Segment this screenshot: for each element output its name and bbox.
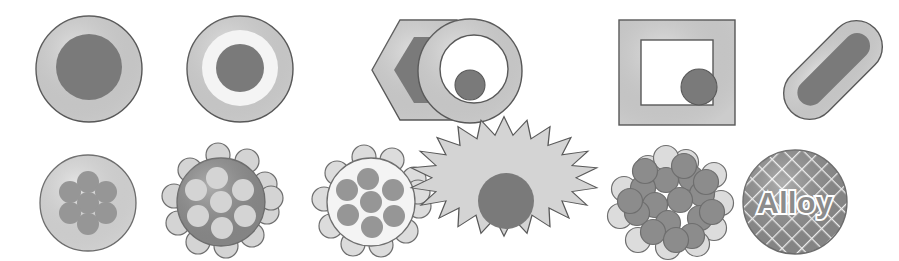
inner-dot — [187, 205, 209, 227]
inner-dot — [361, 216, 383, 238]
cluster-sphere — [668, 188, 693, 213]
core-circle — [216, 44, 264, 92]
cluster-sphere — [694, 170, 719, 195]
particle-core-shell-sphere — [36, 16, 142, 122]
particle-diagram-canvas: Alloy — [0, 0, 899, 261]
inner-dot — [59, 181, 81, 203]
cluster-sphere — [700, 200, 725, 225]
particle-hollow-square-with-core — [619, 20, 735, 125]
cluster-sphere — [672, 154, 697, 179]
inner-dot — [210, 191, 232, 213]
particle-double-shell-sphere — [187, 16, 293, 122]
particle-alloy-sphere: Alloy — [743, 150, 847, 254]
inner-dot — [337, 204, 359, 226]
inner-dot — [185, 179, 207, 201]
core-circle — [56, 34, 122, 100]
inner-dot — [232, 179, 254, 201]
particle-multicore-light-sphere — [40, 155, 136, 251]
inner-dot — [206, 167, 228, 189]
core-circle — [681, 69, 717, 105]
inner-dot — [382, 179, 404, 201]
cluster-sphere — [618, 189, 643, 214]
inner-dot — [383, 205, 405, 227]
nanoparticle-figure: Alloy — [0, 0, 899, 261]
cluster-sphere — [664, 228, 689, 253]
inner-dot — [95, 181, 117, 203]
cluster-sphere — [641, 220, 666, 245]
particle-hollow-ring-with-core — [418, 19, 522, 123]
inner-dot — [336, 179, 358, 201]
cluster-sphere — [633, 159, 658, 184]
inner-dot — [360, 191, 382, 213]
star-core-circle — [478, 173, 534, 229]
inner-dot — [357, 168, 379, 190]
inner-dot — [59, 202, 81, 224]
eccentric-core-circle — [455, 70, 485, 100]
inner-dot — [211, 217, 233, 239]
alloy-label: Alloy — [757, 186, 833, 219]
inner-dot — [234, 205, 256, 227]
